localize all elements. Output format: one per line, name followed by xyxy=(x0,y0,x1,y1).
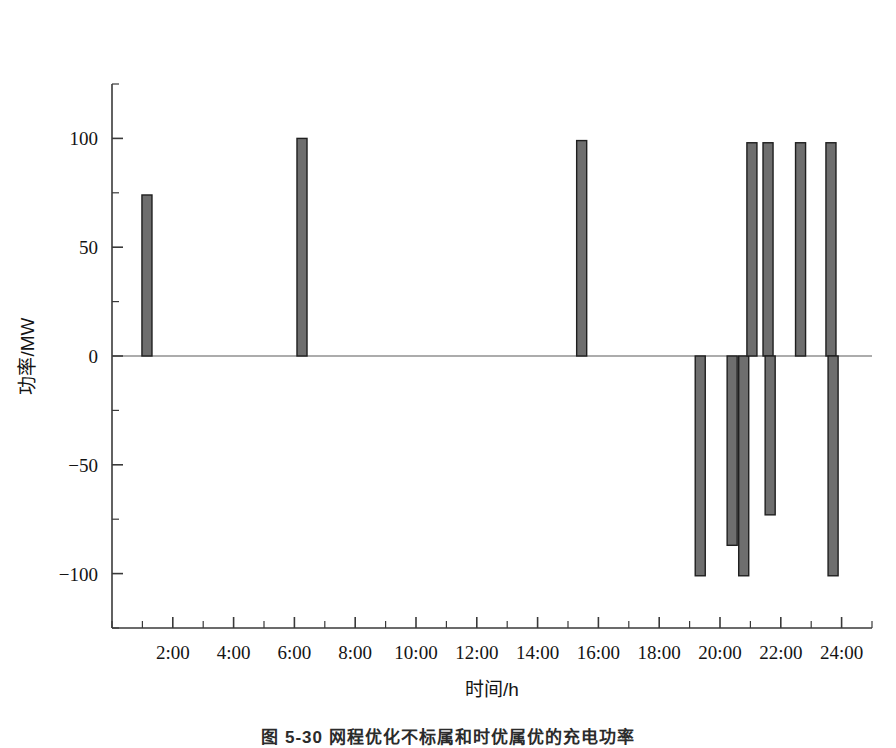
x-axis-tick-label: 10:00 xyxy=(394,642,437,663)
x-axis-tick-label: 6:00 xyxy=(278,642,312,663)
x-axis-tick-label: 2:00 xyxy=(156,642,190,663)
y-axis-tick-label: −100 xyxy=(59,564,98,585)
y-axis-tick-label: 50 xyxy=(79,237,98,258)
x-axis-tick-label: 4:00 xyxy=(217,642,251,663)
y-axis-tick-label: 0 xyxy=(89,346,99,367)
chart-bar xyxy=(796,143,806,356)
x-axis-tick-label: 20:00 xyxy=(698,642,741,663)
chart-bar xyxy=(765,356,775,515)
chart-bar xyxy=(763,143,773,356)
y-axis-tick-label: 100 xyxy=(70,128,99,149)
x-axis-title: 时间/h xyxy=(465,679,519,700)
x-axis-tick-label: 8:00 xyxy=(338,642,372,663)
chart-bar xyxy=(747,143,757,356)
chart-bar xyxy=(828,356,838,576)
chart-bar xyxy=(739,356,749,576)
chart-bar xyxy=(826,143,836,356)
y-axis-title: 功率/MW xyxy=(17,317,38,394)
chart-bar xyxy=(695,356,705,576)
x-axis-tick-label: 12:00 xyxy=(455,642,498,663)
x-axis-tick-label: 18:00 xyxy=(638,642,681,663)
chart-bar xyxy=(297,138,307,356)
chart-bar xyxy=(577,141,587,356)
x-axis-tick-label: 24:00 xyxy=(820,642,863,663)
y-axis-tick-label: −50 xyxy=(68,455,98,476)
x-axis-tick-label: 14:00 xyxy=(516,642,559,663)
figure-caption: 图 5-30 网程优化不标属和时优属优的充电功率 xyxy=(0,726,896,748)
figure-container: −100−500501002:004:006:008:0010:0012:001… xyxy=(0,0,896,748)
x-axis-tick-label: 22:00 xyxy=(759,642,802,663)
x-axis-tick-label: 16:00 xyxy=(577,642,620,663)
chart-bar xyxy=(142,195,152,356)
chart-bar xyxy=(727,356,737,545)
power-bar-chart: −100−500501002:004:006:008:0010:0012:001… xyxy=(0,0,896,716)
